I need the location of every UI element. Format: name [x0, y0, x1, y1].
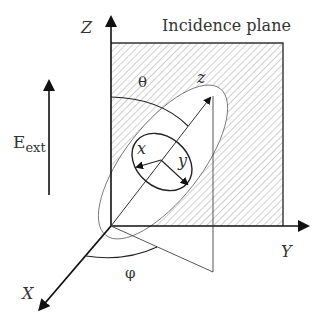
label-phi: φ — [125, 266, 136, 281]
phi-arc — [86, 247, 157, 258]
diagram-canvas — [0, 0, 326, 327]
label-field: Eext — [13, 134, 46, 151]
label-incidence-plane: Incidence plane — [162, 18, 291, 34]
x-axis-lab — [40, 226, 111, 309]
label-mol-x: x — [137, 141, 146, 157]
label-lab-z: Z — [81, 20, 92, 36]
label-mol-y: y — [178, 153, 187, 169]
field-symbol: E — [13, 132, 25, 152]
field-subscript: ext — [25, 140, 45, 155]
label-theta: θ — [138, 75, 147, 90]
label-mol-z: z — [197, 70, 205, 86]
label-lab-y: Y — [281, 244, 292, 260]
label-lab-x: X — [22, 286, 33, 302]
